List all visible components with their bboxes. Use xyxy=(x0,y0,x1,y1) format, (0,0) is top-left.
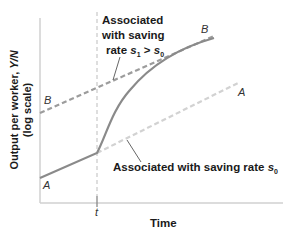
x-tick-t: t xyxy=(95,206,99,218)
callout-top-leader xyxy=(113,57,120,80)
y-axis-label-var: Y/N xyxy=(8,49,20,68)
callout-bottom-text: Associated with saving rate xyxy=(113,161,268,173)
actual-output-curve xyxy=(40,38,214,178)
callout-bottom: Associated with saving rate s0 xyxy=(113,161,278,175)
callout-top-gt: > xyxy=(141,44,154,56)
label-a-start: A xyxy=(42,179,50,191)
callout-top-line1: Associated xyxy=(102,14,163,26)
label-b-end: B xyxy=(201,23,208,35)
callout-top-rate: rate xyxy=(106,44,130,56)
label-b-start: B xyxy=(44,94,51,106)
callout-bottom-sub: 0 xyxy=(274,168,278,175)
callout-top-sub0: 0 xyxy=(160,51,164,58)
label-a-end: A xyxy=(237,86,245,98)
callout-top-line3: rate s1 > s0 xyxy=(106,44,164,58)
path-a-line xyxy=(97,82,240,153)
x-axis-label: Time xyxy=(150,217,177,229)
chart: B B A A Associated with saving rate s1 >… xyxy=(0,0,290,238)
y-axis-sublabel: (log scale) xyxy=(21,82,33,137)
y-axis-label-text: Output per worker, xyxy=(8,69,20,170)
callout-bottom-leader xyxy=(127,140,141,162)
y-axis-label: Output per worker, Y/N xyxy=(8,49,20,169)
y-axis-label-group: Output per worker, Y/N (log scale) xyxy=(8,49,33,169)
callout-top-line2: with saving xyxy=(101,29,165,41)
